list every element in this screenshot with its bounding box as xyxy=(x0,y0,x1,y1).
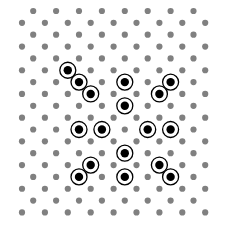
grid-dot xyxy=(65,209,71,215)
grid-dot xyxy=(30,32,36,38)
grid-dot xyxy=(122,55,128,61)
grid-dot xyxy=(202,138,208,144)
grid-dot xyxy=(76,103,82,109)
grid-dot xyxy=(111,91,117,97)
grid-dot xyxy=(111,186,117,192)
grid-dot xyxy=(190,55,196,61)
grid-dot xyxy=(30,126,36,132)
grid-dot xyxy=(99,174,105,180)
grid-dot xyxy=(42,209,48,215)
grid-dot xyxy=(179,162,185,168)
grid-dot xyxy=(202,43,208,49)
grid-dot xyxy=(156,43,162,49)
grid-dot xyxy=(42,43,48,49)
highlight-core-dot xyxy=(75,78,83,86)
grid-dot xyxy=(19,43,25,49)
grid-dot xyxy=(99,55,105,61)
grid-dot xyxy=(88,67,94,73)
grid-dot xyxy=(53,150,59,156)
grid-dot xyxy=(168,55,174,61)
grid-dot xyxy=(145,103,151,109)
highlighted-dot xyxy=(71,74,87,90)
highlighted-dot xyxy=(117,74,133,90)
grid-dot xyxy=(202,162,208,168)
highlighted-dot xyxy=(71,169,87,185)
grid-dot xyxy=(156,67,162,73)
highlighted-dot xyxy=(117,98,133,114)
grid-dot xyxy=(133,162,139,168)
grid-dot xyxy=(190,126,196,132)
grid-dot xyxy=(133,20,139,26)
highlight-core-dot xyxy=(87,90,95,98)
grid-dot xyxy=(53,8,59,14)
grid-dot xyxy=(156,115,162,121)
grid-dot xyxy=(76,198,82,204)
grid-dot xyxy=(190,174,196,180)
highlighted-dot xyxy=(151,86,167,102)
highlight-core-dot xyxy=(121,78,129,86)
grid-dot xyxy=(168,103,174,109)
highlight-core-dot xyxy=(64,66,72,74)
grid-dot xyxy=(19,20,25,26)
grid-dot xyxy=(168,150,174,156)
grid-dot xyxy=(122,126,128,132)
highlight-core-dot xyxy=(166,125,174,133)
highlight-core-dot xyxy=(75,173,83,181)
grid-dot xyxy=(202,20,208,26)
grid-dot xyxy=(88,43,94,49)
grid-dot xyxy=(145,32,151,38)
grid-dot xyxy=(76,150,82,156)
grid-dot xyxy=(99,79,105,85)
highlight-core-dot xyxy=(121,149,129,157)
grid-dot xyxy=(190,150,196,156)
grid-dot xyxy=(133,43,139,49)
grid-dot xyxy=(145,55,151,61)
grid-dot xyxy=(53,55,59,61)
grid-dot xyxy=(19,115,25,121)
grid-dot xyxy=(133,138,139,144)
highlighted-dot xyxy=(117,145,133,161)
grid-dot xyxy=(76,32,82,38)
grid-dot xyxy=(179,186,185,192)
grid-dot xyxy=(19,138,25,144)
grid-dot xyxy=(111,209,117,215)
grid-dot xyxy=(111,138,117,144)
grid-dot xyxy=(133,67,139,73)
grid-dot xyxy=(19,91,25,97)
highlight-core-dot xyxy=(155,90,163,98)
grid-dot xyxy=(190,198,196,204)
grid-dot xyxy=(156,186,162,192)
grid-dot xyxy=(30,150,36,156)
grid-dot xyxy=(42,20,48,26)
grid-dot xyxy=(99,150,105,156)
highlighted-dot xyxy=(83,157,99,173)
grid-dot xyxy=(168,198,174,204)
grid-dot xyxy=(202,91,208,97)
highlight-core-dot xyxy=(155,161,163,169)
grid-dot xyxy=(168,32,174,38)
grid-dot xyxy=(190,103,196,109)
highlighted-dot xyxy=(71,122,87,138)
grid-dot xyxy=(156,138,162,144)
highlight-core-dot xyxy=(87,161,95,169)
grid-dot xyxy=(88,20,94,26)
grid-dot xyxy=(179,115,185,121)
grid-dot xyxy=(179,43,185,49)
grid-dot xyxy=(19,67,25,73)
highlighted-dot xyxy=(163,122,179,138)
grid-dot xyxy=(76,8,82,14)
grid-dot xyxy=(65,115,71,121)
grid-dot xyxy=(190,79,196,85)
grid-dot xyxy=(202,67,208,73)
grid-dot xyxy=(111,67,117,73)
grid-dot xyxy=(30,103,36,109)
grid-dot xyxy=(42,67,48,73)
grid-dot xyxy=(111,20,117,26)
grid-dot xyxy=(145,79,151,85)
grid-dot xyxy=(65,186,71,192)
grid-dot xyxy=(99,103,105,109)
grid-dot xyxy=(145,174,151,180)
grid-dot xyxy=(145,8,151,14)
grid-dot xyxy=(168,8,174,14)
highlight-core-dot xyxy=(144,125,152,133)
